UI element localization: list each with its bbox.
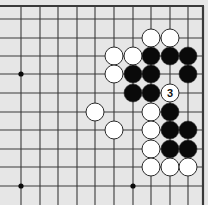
stone-circle: [179, 65, 197, 83]
black-stone: [142, 65, 160, 83]
stone-circle: [142, 29, 160, 47]
stone-circle: [142, 84, 160, 102]
white-stone: [142, 158, 160, 176]
white-stone: [86, 103, 104, 121]
black-stone: [142, 84, 160, 102]
go-board: 3: [0, 0, 208, 205]
stone-circle: [179, 121, 197, 139]
black-stone: [179, 140, 197, 158]
black-stone: [161, 47, 179, 65]
stone-circle: [179, 140, 197, 158]
stone-circle: [161, 29, 179, 47]
white-stone: [161, 29, 179, 47]
stone-circle: [142, 47, 160, 65]
stone-circle: [161, 103, 179, 121]
stone-circle: [105, 65, 123, 83]
white-stone: [105, 47, 123, 65]
stone-circle: [105, 121, 123, 139]
black-stone: [142, 47, 160, 65]
stone-circle: [179, 158, 197, 176]
stone-circle: [124, 47, 142, 65]
white-stone: [161, 158, 179, 176]
black-stone: [124, 84, 142, 102]
white-stone: [142, 103, 160, 121]
white-stone: [142, 140, 160, 158]
stone-circle: [142, 158, 160, 176]
hoshi-point: [18, 71, 23, 76]
hoshi-point: [18, 183, 23, 188]
black-stone: [179, 47, 197, 65]
stone-circle: [142, 140, 160, 158]
white-stone: [105, 65, 123, 83]
black-stone: [179, 121, 197, 139]
white-stone: [124, 47, 142, 65]
stone-circle: [161, 140, 179, 158]
black-stone: [161, 121, 179, 139]
stone-circle: [179, 47, 197, 65]
hoshi-point: [130, 183, 135, 188]
black-stone: [161, 140, 179, 158]
black-stone: [124, 65, 142, 83]
white-stone: [142, 29, 160, 47]
stone-circle: [161, 47, 179, 65]
white-stone: 3: [161, 84, 179, 102]
stone-circle: [142, 65, 160, 83]
white-stone: [179, 158, 197, 176]
white-stone: [105, 121, 123, 139]
stone-circle: [142, 103, 160, 121]
stone-circle: [124, 65, 142, 83]
stone-circle: [161, 121, 179, 139]
stone-circle: [161, 158, 179, 176]
black-stone: [179, 65, 197, 83]
move-number-label: 3: [167, 87, 173, 99]
stone-circle: [124, 84, 142, 102]
stone-circle: [86, 103, 104, 121]
black-stone: [161, 103, 179, 121]
stones: 3: [86, 29, 197, 176]
stone-circle: [105, 47, 123, 65]
white-stone: [142, 121, 160, 139]
stone-circle: [142, 121, 160, 139]
